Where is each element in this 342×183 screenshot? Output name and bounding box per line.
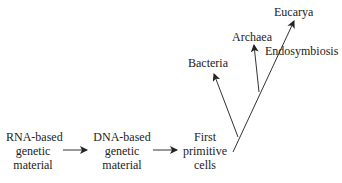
archaea-branch bbox=[254, 45, 259, 92]
bacteria-branch bbox=[214, 74, 238, 137]
label-archaea: Archaea bbox=[232, 30, 272, 44]
stage-first-cells: First primitive cells bbox=[180, 130, 230, 172]
label-endosymbiosis: Endosymbiosis bbox=[265, 44, 338, 58]
stage-rna-line1: RNA-based bbox=[6, 130, 60, 144]
stage-cells-line1: First bbox=[180, 130, 230, 144]
stage-dna-line2: genetic bbox=[93, 144, 151, 158]
stage-dna: DNA-based genetic material bbox=[93, 130, 151, 172]
stage-rna-line3: material bbox=[6, 158, 60, 172]
stage-cells-line2: primitive bbox=[180, 144, 230, 158]
label-bacteria: Bacteria bbox=[188, 56, 228, 70]
label-eucarya: Eucarya bbox=[274, 5, 313, 19]
stage-cells-line3: cells bbox=[180, 158, 230, 172]
stage-dna-line3: material bbox=[93, 158, 151, 172]
stage-rna: RNA-based genetic material bbox=[6, 130, 60, 172]
stage-rna-line2: genetic bbox=[6, 144, 60, 158]
stage-dna-line1: DNA-based bbox=[93, 130, 151, 144]
